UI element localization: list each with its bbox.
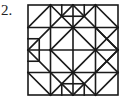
grid-lines bbox=[28, 5, 118, 95]
geometry-figure bbox=[0, 0, 126, 102]
